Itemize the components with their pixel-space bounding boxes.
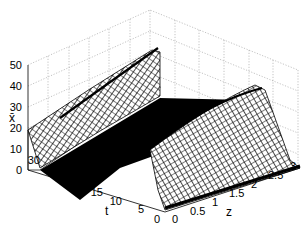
t-tick-20: 20	[69, 177, 81, 189]
z-axis-label: z	[226, 205, 232, 219]
xbar-tick-0: 0	[16, 164, 22, 176]
xbar-tick-50: 50	[10, 59, 22, 71]
z-tick-0: 0	[172, 213, 178, 225]
xbar-axis-label: x̄	[9, 111, 15, 125]
t-tick-10: 10	[110, 195, 122, 207]
t-tick-30: 30	[28, 154, 40, 166]
z-tick-2.5: 2.5	[268, 169, 283, 181]
z-tick-1.5: 1.5	[229, 187, 244, 199]
z-tick-1: 1	[212, 196, 218, 208]
z-tick-2: 2	[251, 178, 257, 190]
xbar-tick-10: 10	[10, 143, 22, 155]
t-axis-label: t	[105, 204, 109, 218]
surface-plot: 0 10 20 30 40 50 x̄ 0 5 10 15 20 25 30 t…	[0, 0, 305, 234]
z-tick-0.5: 0.5	[190, 205, 205, 217]
t-tick-15: 15	[91, 186, 103, 198]
t-tick-5: 5	[138, 203, 144, 215]
xbar-tick-40: 40	[10, 80, 22, 92]
t-tick-0: 0	[154, 213, 160, 225]
xbar-axis-ticks: 0 10 20 30 40 50 x̄	[9, 59, 22, 176]
t-tick-25: 25	[49, 167, 61, 179]
z-tick-3: 3	[290, 160, 296, 172]
